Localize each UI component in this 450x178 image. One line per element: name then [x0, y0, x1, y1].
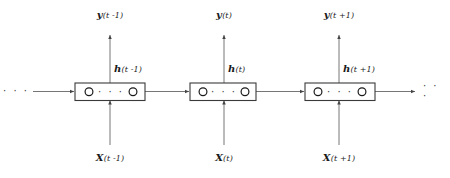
unit-first-t [199, 88, 207, 96]
cell-inner-ellipsis-t-minus-1: · · · [98, 87, 124, 97]
output-index-t-minus-1: (t -1) [103, 11, 123, 20]
cell-inner-ellipsis-t-plus-1: · · · [327, 87, 353, 97]
output-label-t: y(t) [216, 10, 232, 20]
input-index-t-minus-1: (t -1) [104, 154, 124, 163]
output-index-t: (t) [222, 11, 232, 20]
hidden-index-t: (t) [235, 65, 245, 74]
hidden-index-t-plus-1: (t +1) [350, 65, 374, 74]
input-index-t: (t) [223, 154, 233, 163]
unit-last-t [241, 88, 249, 96]
hidden-label-t-plus-1: h(t +1) [343, 64, 375, 74]
unit-last-t-plus-1 [358, 88, 366, 96]
input-label-t: X(t) [215, 153, 233, 163]
rnn-unrolled-diagram: · · · · · · · · · · · · · · · y(t -1) y(… [0, 0, 450, 178]
input-var-t: X [215, 152, 223, 163]
input-label-t-minus-1: X(t -1) [96, 153, 124, 163]
unit-first-t-minus-1 [85, 88, 93, 96]
input-index-t-plus-1: (t +1) [331, 154, 355, 163]
input-var-t-minus-1: X [96, 152, 104, 163]
unit-first-t-plus-1 [314, 88, 322, 96]
cell-inner-ellipsis-t: · · · [211, 87, 237, 97]
unit-last-t-minus-1 [129, 88, 137, 96]
output-index-t-plus-1: (t +1) [330, 11, 354, 20]
output-label-t-plus-1: y(t +1) [324, 10, 354, 20]
left-sequence-ellipsis: · · · [3, 86, 29, 96]
input-label-t-plus-1: X(t +1) [323, 153, 355, 163]
right-sequence-ellipsis: · · · [423, 81, 441, 101]
output-label-t-minus-1: y(t -1) [97, 10, 123, 20]
input-var-t-plus-1: X [323, 152, 331, 163]
hidden-index-t-minus-1: (t -1) [121, 65, 141, 74]
hidden-label-t: h(t) [228, 64, 245, 74]
hidden-label-t-minus-1: h(t -1) [114, 64, 142, 74]
